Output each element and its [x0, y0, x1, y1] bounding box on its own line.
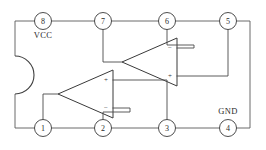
diagram-canvas: − + + −: [0, 0, 266, 150]
pin-7[interactable]: 7: [95, 13, 112, 30]
pin-5-number: 5: [226, 17, 230, 26]
pin-4-number: 4: [226, 124, 230, 133]
lower-opamp-inverting-mark: −: [104, 104, 108, 112]
vcc-label: VCC: [34, 30, 52, 40]
top-pin-row: 8 VCC 7 6 5: [34, 13, 237, 41]
pin-4[interactable]: 4 GND: [218, 106, 237, 137]
pin-1-number: 1: [41, 124, 45, 133]
upper-opamp-noninverting-mark: +: [168, 72, 172, 80]
wire-pin5-to-upper-noninverting: [177, 21, 228, 76]
pin-6-number: 6: [165, 17, 169, 26]
pin-6[interactable]: 6: [159, 13, 176, 30]
pin-8-number: 8: [41, 17, 45, 26]
gnd-label: GND: [218, 106, 237, 116]
wire-lower-noninverting-to-pin3: [113, 80, 167, 128]
pin-7-number: 7: [101, 17, 105, 26]
lower-opamp-symbol: + −: [58, 70, 113, 118]
pin-3-number: 3: [165, 124, 169, 133]
pin-5[interactable]: 5: [220, 13, 237, 30]
pin-8[interactable]: 8 VCC: [34, 13, 52, 41]
pin-2[interactable]: 2: [95, 120, 112, 137]
bottom-pin-row: 1 2 3 4 GND: [35, 106, 238, 137]
lower-opamp-noninverting-mark: +: [104, 76, 108, 84]
ic-pinout-diagram: − + + −: [0, 0, 266, 150]
pin-3[interactable]: 3: [159, 120, 176, 137]
package-notch-icon: [15, 56, 34, 94]
pin-2-number: 2: [101, 124, 105, 133]
pin-1[interactable]: 1: [35, 120, 52, 137]
